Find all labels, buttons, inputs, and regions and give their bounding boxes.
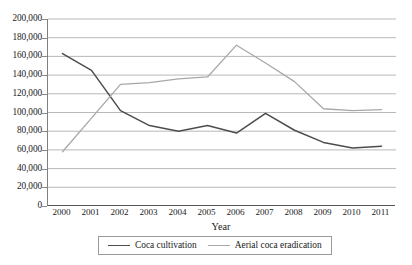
x-axis-tick-label: 2010 — [342, 208, 360, 217]
x-axis-tick-label: 2003 — [139, 208, 157, 217]
x-axis-tick-label: 2007 — [255, 208, 273, 217]
x-axis-title: Year — [47, 221, 395, 232]
y-axis-tick-label: 40,000 — [17, 164, 42, 173]
line-chart: 020,00040,00060,00080,000100,000120,0001… — [0, 0, 412, 265]
x-axis-tick-label: 2000 — [52, 208, 70, 217]
y-axis-tick-label: 120,000 — [12, 89, 42, 98]
y-axis-tick-label: 100,000 — [12, 108, 42, 117]
y-axis-tick-label: 180,000 — [12, 33, 42, 42]
gridlines — [48, 19, 396, 187]
y-axis: 020,00040,00060,00080,000100,000120,0001… — [0, 19, 42, 206]
y-axis-tick-label: 20,000 — [17, 183, 42, 192]
x-axis-tick-label: 2011 — [372, 208, 390, 217]
legend-line-icon-0 — [108, 245, 130, 246]
x-axis-tick-label: 2008 — [284, 208, 302, 217]
series-line — [63, 45, 382, 152]
legend-item-aerial-coca-eradication: Aerial coca eradication — [208, 241, 322, 250]
y-axis-tick — [42, 206, 47, 207]
x-axis: 2000200120022003200420052006200720082009… — [47, 208, 395, 222]
y-axis-tick-label: 200,000 — [12, 14, 42, 23]
y-axis-tick-label: 60,000 — [17, 145, 42, 154]
y-axis-tick-label: 160,000 — [12, 52, 42, 61]
y-axis-tick-label: 80,000 — [17, 127, 42, 136]
x-axis-tick-label: 2006 — [226, 208, 244, 217]
chart-legend: Coca cultivation Aerial coca eradication — [98, 236, 332, 255]
plot-area — [47, 19, 395, 206]
legend-label-1: Aerial coca eradication — [235, 241, 322, 250]
series-lines — [63, 45, 382, 152]
x-axis-tick-label: 2009 — [313, 208, 331, 217]
x-axis-tick-label: 2004 — [168, 208, 186, 217]
legend-line-icon-1 — [208, 245, 230, 246]
x-axis-tick-label: 2005 — [197, 208, 215, 217]
legend-item-coca-cultivation: Coca cultivation — [108, 241, 197, 250]
legend-label-0: Coca cultivation — [135, 241, 197, 250]
series-line — [63, 54, 382, 148]
y-axis-tick-label: 140,000 — [12, 70, 42, 79]
plot-svg — [48, 19, 396, 206]
x-axis-tick-label: 2002 — [110, 208, 128, 217]
x-axis-tick-label: 2001 — [81, 208, 99, 217]
